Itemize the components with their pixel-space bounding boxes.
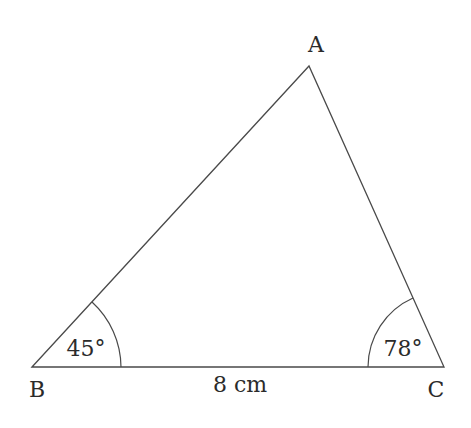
angle-label-c: 78° (384, 336, 423, 361)
angle-label-b: 45° (67, 336, 106, 361)
triangle-diagram: A B C 45° 78° 8 cm (0, 0, 471, 428)
triangle-abc (32, 66, 444, 367)
vertex-label-c: C (428, 377, 445, 402)
vertex-label-a: A (307, 32, 325, 57)
vertex-label-b: B (29, 377, 45, 402)
side-label-bc: 8 cm (213, 372, 267, 397)
